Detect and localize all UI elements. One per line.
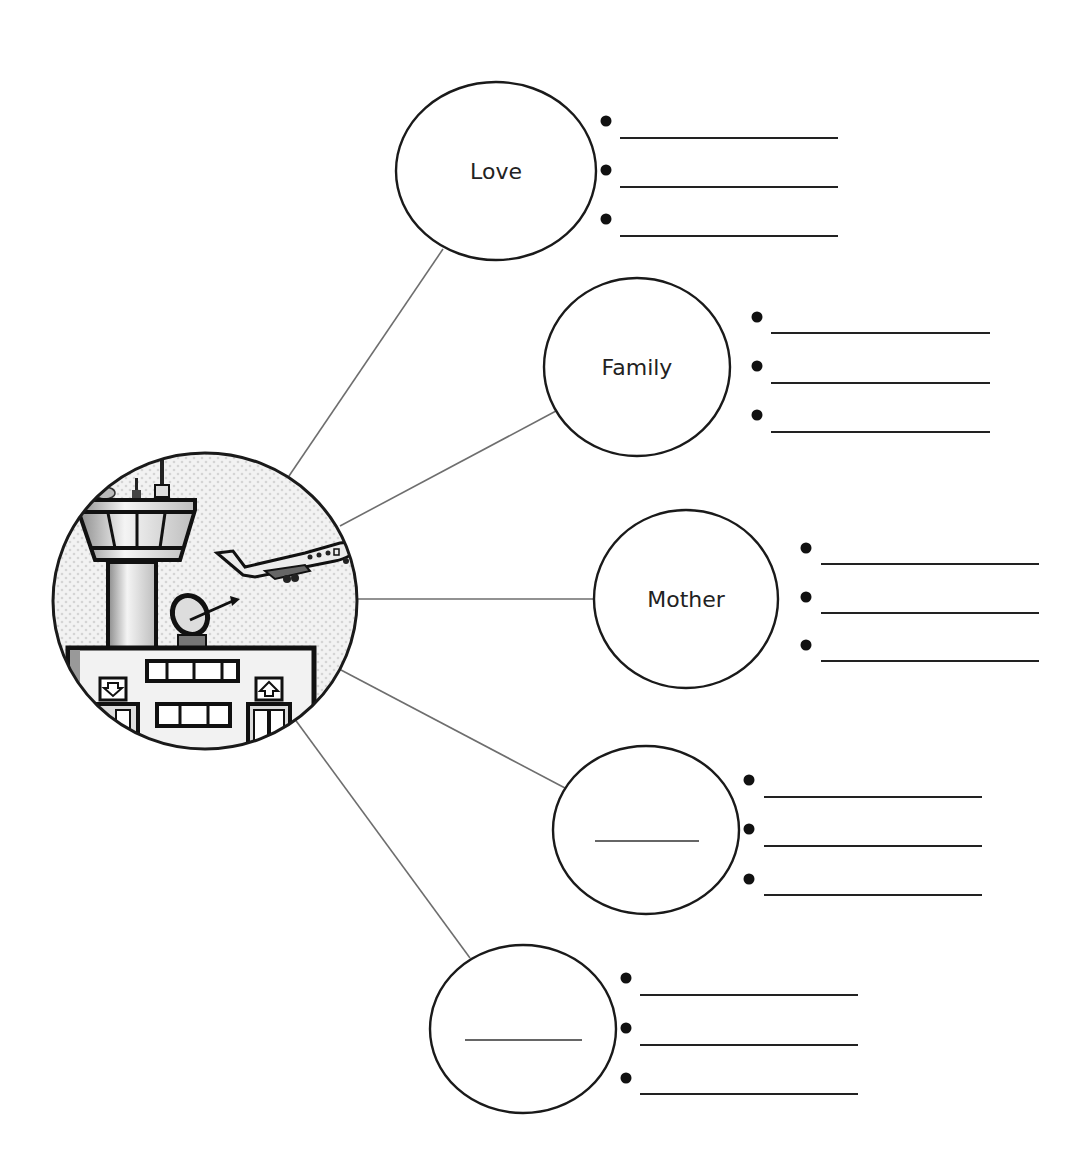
node-family: Family xyxy=(544,278,990,456)
node-label-family: Family xyxy=(602,355,673,380)
node-love: Love xyxy=(396,82,838,260)
node-blank-2 xyxy=(430,945,858,1113)
word-web-diagram: Love Family Mother xyxy=(0,0,1092,1159)
bullet-dot xyxy=(601,116,612,127)
connector-love xyxy=(289,249,443,476)
node-circle xyxy=(553,746,739,914)
node-blank-1 xyxy=(553,746,982,914)
bullet-dot xyxy=(601,165,612,176)
bullet-dot xyxy=(752,410,763,421)
bullet-dot xyxy=(801,543,812,554)
bullet-dot xyxy=(801,640,812,651)
node-circle xyxy=(430,945,616,1113)
bullet-list xyxy=(752,312,991,433)
bullet-list xyxy=(601,116,839,237)
bullet-dot xyxy=(621,973,632,984)
bullet-dot xyxy=(621,1073,632,1084)
connector-family xyxy=(340,411,556,526)
node-label-love: Love xyxy=(470,159,522,184)
bullet-dot xyxy=(752,361,763,372)
connector-blank-2 xyxy=(294,718,470,958)
bullet-dot xyxy=(801,592,812,603)
node-label-mother: Mother xyxy=(647,587,726,612)
bullet-dot xyxy=(744,874,755,885)
connector-blank-1 xyxy=(341,670,565,788)
bullet-dot xyxy=(601,214,612,225)
bullet-list xyxy=(744,775,983,896)
bullet-dot xyxy=(752,312,763,323)
bullet-list xyxy=(621,973,859,1095)
bullet-dot xyxy=(744,775,755,786)
hub-airport-icon xyxy=(53,453,357,768)
bullet-list xyxy=(801,543,1040,662)
bullet-dot xyxy=(744,824,755,835)
bullet-dot xyxy=(621,1023,632,1034)
node-mother: Mother xyxy=(594,510,1039,688)
